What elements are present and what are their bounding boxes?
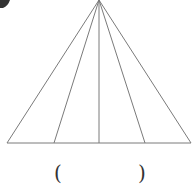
fan-line-4	[99, 0, 191, 143]
fan-lines	[7, 0, 191, 143]
answer-close-paren: )	[138, 163, 146, 183]
fan-line-3	[99, 0, 145, 143]
triangle-fan-diagram	[0, 0, 194, 185]
answer-blank[interactable]	[66, 163, 136, 185]
answer-open-paren: (	[54, 163, 62, 183]
fan-line-0	[7, 0, 99, 143]
corner-mark-icon	[0, 0, 10, 8]
fan-line-1	[54, 0, 99, 143]
